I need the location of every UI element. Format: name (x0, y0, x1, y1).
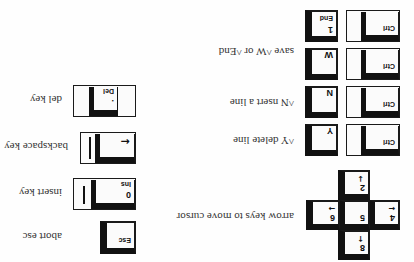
key-right-number: 6 (330, 213, 335, 222)
arrow-left-icon: ← (388, 204, 395, 212)
key-delete-label: Del (103, 88, 114, 95)
ctrl-key: Ctrl (346, 124, 400, 156)
keyboard-reference-page: 8 ↑ 4 ← 5 6 → 2 ↓ arrow keys to move cur… (0, 0, 414, 262)
key-left-4: 4 ← (368, 200, 400, 230)
ctrl-key-label: Ctrl (383, 63, 395, 70)
key-insert: 0 Ins (73, 178, 136, 210)
ctrl-key-label: Ctrl (383, 101, 395, 108)
key-delete-dot: . (111, 98, 114, 107)
key-insert-divider (84, 186, 86, 204)
key-end-label: End (320, 15, 333, 22)
key-right-6: 6 → (306, 200, 340, 230)
key-up-8: 8 ↑ (338, 230, 370, 260)
key-delete-left-divider (117, 87, 135, 116)
ctrl-key-label: Ctrl (383, 139, 395, 146)
ctrl-y-description: ^Y delete line (233, 135, 294, 146)
ctrl-key: Ctrl (346, 48, 400, 80)
key-end-number: 1 (328, 25, 333, 34)
key-w: W (305, 48, 338, 80)
key-center-number: 5 (360, 213, 365, 222)
ctrl-key: Ctrl (346, 86, 400, 118)
key-n: N (305, 86, 338, 118)
ctrl-key-face: Ctrl (361, 50, 399, 79)
arrow-up-icon: ↑ (357, 234, 364, 242)
key-insert-label: Ins (121, 181, 131, 188)
esc-description: abort esc (23, 231, 62, 242)
ctrl-key-face: Ctrl (361, 12, 399, 41)
key-backspace-divider (90, 137, 92, 159)
key-esc-label: Esc (119, 237, 131, 244)
backspace-arrow-icon: ← (121, 136, 130, 147)
key-left-number: 4 (390, 213, 395, 222)
ctrl-n-description: ^N nsert a line (230, 97, 294, 108)
key-w-label: W (325, 50, 334, 59)
key-backspace: ← (80, 132, 136, 164)
key-down-number: 2 (360, 183, 365, 192)
key-y: Y (305, 124, 338, 156)
ctrl-w-description: save ^W or ^End (219, 46, 294, 57)
key-insert-number: 0 (126, 190, 131, 199)
arrow-keys-description: arrow keys to move cursor (177, 211, 294, 222)
key-y-label: Y (327, 126, 333, 135)
backspace-description: backspace key (4, 141, 68, 152)
arrow-down-icon: ↓ (357, 174, 364, 182)
key-backspace-face: ← (95, 134, 135, 163)
key-delete: . Del (73, 85, 136, 117)
ctrl-key-label: Ctrl (383, 25, 395, 32)
key-insert-face: 0 Ins (91, 180, 135, 209)
key-esc: Esc (100, 221, 136, 254)
ctrl-key-face: Ctrl (361, 126, 399, 155)
insert-description: insert key (19, 187, 62, 198)
delete-description: del key (30, 94, 62, 105)
key-center-5: 5 (338, 200, 370, 230)
key-down-2: 2 ↓ (338, 170, 370, 200)
ctrl-key: Ctrl (346, 10, 400, 42)
key-end: 1 End (305, 10, 338, 42)
key-up-number: 8 (360, 243, 365, 252)
key-n-label: N (327, 88, 334, 97)
arrow-right-icon: → (328, 204, 335, 212)
ctrl-key-face: Ctrl (361, 88, 399, 117)
key-delete-face: . Del (89, 87, 117, 116)
